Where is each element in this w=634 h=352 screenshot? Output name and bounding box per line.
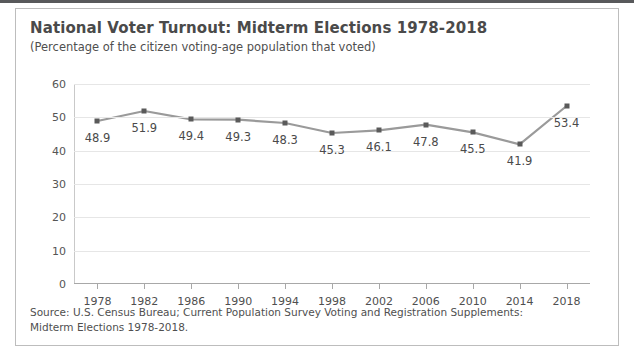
y-axis-tick-label: 60: [32, 78, 66, 91]
data-point-marker: [517, 142, 522, 147]
data-point-label: 53.4: [554, 116, 580, 130]
chart-plot-area: 0102030405060197819821986199019941998200…: [74, 84, 590, 284]
x-axis-tick: [144, 284, 145, 289]
gridline-30: [74, 184, 590, 185]
data-point-marker: [189, 117, 194, 122]
page-subtitle: (Percentage of the citizen voting-age po…: [30, 40, 376, 54]
chart-page: National Voter Turnout: Midterm Election…: [0, 0, 634, 352]
gridline-20: [74, 217, 590, 218]
source-line-2: Midterm Elections 1978-2018.: [30, 320, 590, 335]
y-axis-tick-label: 30: [32, 178, 66, 191]
data-point-label: 47.8: [413, 135, 439, 149]
y-axis-tick-label: 40: [32, 144, 66, 157]
x-axis-tick: [426, 284, 427, 289]
data-point-marker: [330, 131, 335, 136]
data-point-label: 49.3: [225, 130, 251, 144]
data-point-marker: [236, 117, 241, 122]
data-point-marker: [376, 128, 381, 133]
gridline-50: [74, 117, 590, 118]
data-point-label: 41.9: [507, 154, 533, 168]
data-point-marker: [470, 130, 475, 135]
data-point-label: 49.4: [178, 129, 204, 143]
data-point-label: 51.9: [132, 121, 158, 135]
source-line-1: Source: U.S. Census Bureau; Current Popu…: [30, 305, 590, 320]
page-title: National Voter Turnout: Midterm Election…: [30, 19, 487, 37]
y-axis-tick-label: 50: [32, 111, 66, 124]
x-axis-tick: [238, 284, 239, 289]
page-top-edge: [0, 0, 634, 3]
gridline-60: [74, 84, 590, 85]
x-axis-tick: [473, 284, 474, 289]
data-point-marker: [423, 122, 428, 127]
x-axis-tick: [191, 284, 192, 289]
source-note: Source: U.S. Census Bureau; Current Popu…: [30, 305, 590, 335]
x-axis-tick: [520, 284, 521, 289]
x-axis-tick: [97, 284, 98, 289]
data-point-marker: [564, 104, 569, 109]
data-point-label: 48.9: [85, 131, 111, 145]
y-axis-tick-label: 10: [32, 244, 66, 257]
data-point-label: 45.5: [460, 142, 486, 156]
data-point-marker: [95, 119, 100, 124]
y-axis-tick-label: 0: [32, 278, 66, 291]
gridline-10: [74, 251, 590, 252]
x-axis-tick: [285, 284, 286, 289]
data-point-label: 45.3: [319, 143, 345, 157]
x-axis-tick: [567, 284, 568, 289]
line-chart: 0102030405060197819821986199019941998200…: [30, 70, 600, 285]
data-point-label: 46.1: [366, 140, 392, 154]
data-point-marker: [283, 121, 288, 126]
x-axis-tick: [379, 284, 380, 289]
data-point-marker: [142, 109, 147, 114]
y-axis-tick-label: 20: [32, 211, 66, 224]
x-axis-tick: [332, 284, 333, 289]
data-point-label: 48.3: [272, 133, 298, 147]
